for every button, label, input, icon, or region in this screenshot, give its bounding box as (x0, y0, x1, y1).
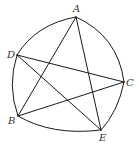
chord-b-c (18, 82, 124, 116)
chord-a-b (18, 17, 76, 116)
outer-curved-boundary (12, 17, 124, 131)
vertex-label-e: E (98, 132, 107, 143)
chord-d-e (17, 55, 101, 130)
chord-d-c (17, 55, 124, 82)
arc-c-e (101, 82, 124, 130)
inner-pentagram (17, 17, 124, 130)
vertex-label-d: D (6, 49, 15, 60)
vertex-labels: A C E B D (6, 3, 134, 143)
vertex-label-c: C (126, 77, 134, 88)
arc-b-d (12, 55, 18, 116)
arc-d-a (17, 17, 76, 55)
pentagon-diagram: A C E B D (0, 0, 139, 144)
vertex-label-b: B (7, 115, 15, 126)
vertex-label-a: A (72, 3, 80, 14)
